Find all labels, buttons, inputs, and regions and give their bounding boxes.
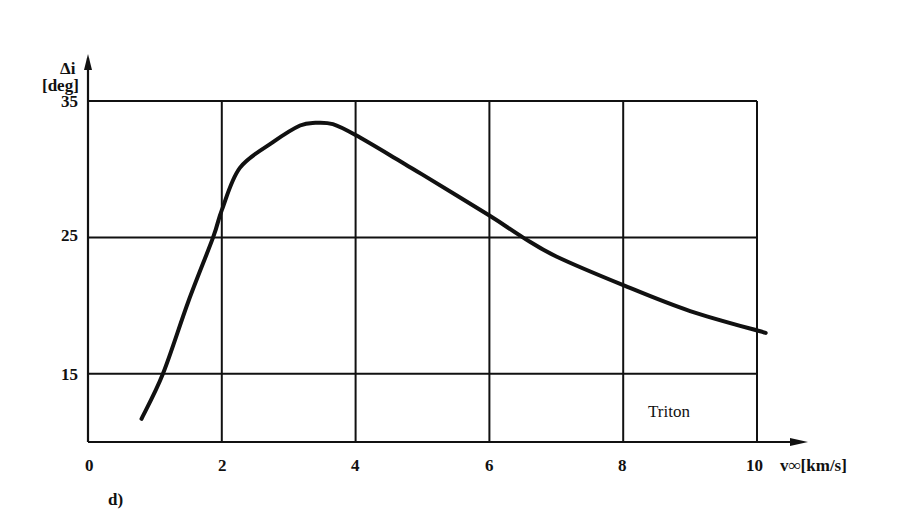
- annotation-triton: Triton: [648, 403, 690, 420]
- x-tick-0: 0: [85, 457, 94, 474]
- y-tick-25: 25: [61, 227, 78, 244]
- x-tick-4: 4: [351, 457, 360, 474]
- y-tick-35: 35: [61, 93, 78, 110]
- chart-canvas: [0, 0, 900, 520]
- x-tick-10: 10: [746, 457, 763, 474]
- y-axis-arrow-icon: [84, 54, 92, 70]
- axes: [84, 54, 808, 446]
- grid-lines: [88, 101, 757, 442]
- x-axis-arrow-icon: [790, 438, 808, 446]
- x-axis-label: v∞[km/s]: [780, 457, 847, 474]
- y-tick-15: 15: [61, 366, 78, 383]
- y-axis-symbol: Δi: [60, 60, 75, 77]
- x-tick-8: 8: [618, 457, 627, 474]
- x-tick-2: 2: [218, 457, 227, 474]
- panel-label: d): [108, 491, 123, 508]
- x-tick-6: 6: [485, 457, 494, 474]
